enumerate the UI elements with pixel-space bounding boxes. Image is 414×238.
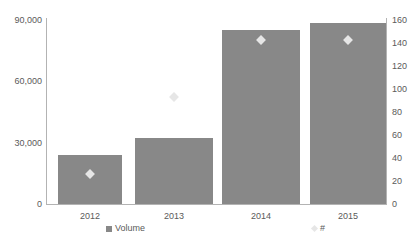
bar-2012[interactable]: [58, 155, 122, 204]
x-axis-line: [46, 204, 387, 205]
right-axis-tick-120: 120: [392, 62, 407, 71]
right-axis-tick-140: 140: [392, 39, 407, 48]
chart-legend: Volume #: [0, 222, 414, 236]
x-axis-label-2013: 2013: [135, 212, 213, 221]
right-axis-tick-160: 160: [392, 16, 407, 25]
legend-label-count: #: [320, 224, 325, 233]
bar-2015[interactable]: [310, 23, 386, 204]
x-axis-label-2014: 2014: [222, 212, 300, 221]
x-axis-label-2012: 2012: [58, 212, 122, 221]
legend-entry-volume[interactable]: Volume: [106, 224, 145, 233]
right-axis-tick-100: 100: [392, 85, 407, 94]
left-axis-tick-90000: 90,000: [14, 16, 42, 25]
right-axis-tick-20: 20: [392, 177, 402, 186]
diamond-swatch-icon: [311, 225, 318, 232]
square-swatch-icon: [106, 226, 112, 232]
bar-2013[interactable]: [135, 138, 213, 204]
right-axis-tick-0: 0: [392, 200, 397, 209]
right-axis-line: [386, 18, 387, 205]
left-axis-tick-60000: 60,000: [14, 77, 42, 86]
right-axis-tick-60: 60: [392, 131, 402, 140]
right-axis-tick-80: 80: [392, 108, 402, 117]
right-axis-tick-40: 40: [392, 154, 402, 163]
bar-2014[interactable]: [222, 30, 300, 204]
legend-label-volume: Volume: [115, 224, 145, 233]
chart-container: 90,000 60,000 30,000 0 160 140 120 100 8…: [0, 0, 414, 238]
plot-area: [46, 18, 387, 205]
legend-entry-count[interactable]: #: [312, 224, 325, 233]
left-axis-tick-30000: 30,000: [14, 139, 42, 148]
x-axis-label-2015: 2015: [310, 212, 386, 221]
left-axis-tick-0: 0: [37, 200, 42, 209]
left-axis-line: [46, 18, 47, 205]
marker-2013[interactable]: [169, 92, 179, 102]
